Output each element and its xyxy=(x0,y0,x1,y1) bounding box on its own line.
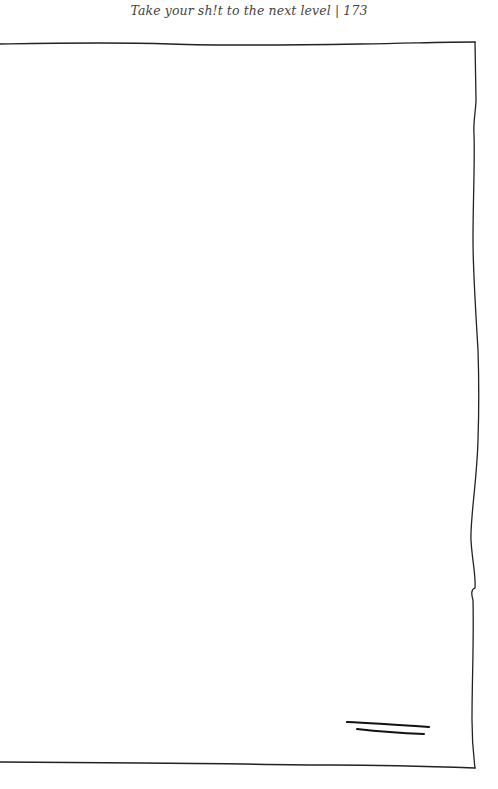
frame-top-edge xyxy=(0,42,475,45)
frame-bottom-edge xyxy=(0,762,475,768)
journal-frame xyxy=(0,0,498,789)
frame-right-edge xyxy=(471,42,479,768)
double-stroke-mark-icon xyxy=(347,722,429,734)
